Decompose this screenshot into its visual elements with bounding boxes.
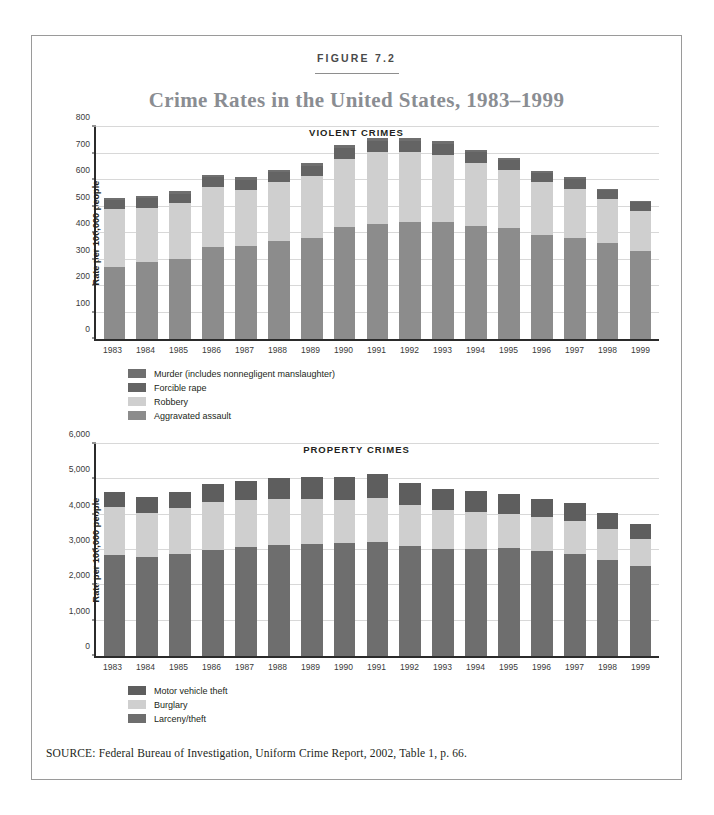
bar-column[interactable] (361, 127, 394, 339)
bar-column[interactable] (230, 127, 263, 339)
bar-segment[interactable] (399, 483, 421, 505)
bar-segment[interactable] (268, 172, 290, 182)
bar-segment[interactable] (268, 241, 290, 339)
bar-segment[interactable] (367, 224, 389, 339)
bar-column[interactable] (197, 444, 230, 656)
bar-segment[interactable] (169, 194, 191, 204)
bar-column[interactable] (493, 127, 526, 339)
bar-segment[interactable] (334, 500, 356, 544)
bar-segment[interactable] (498, 494, 520, 514)
bar-segment[interactable] (498, 514, 520, 549)
bar-segment[interactable] (104, 555, 126, 656)
bar-segment[interactable] (136, 208, 158, 262)
bar-segment[interactable] (136, 557, 158, 656)
bar-segment[interactable] (136, 262, 158, 339)
bar-segment[interactable] (104, 209, 126, 267)
bar-column[interactable] (624, 444, 657, 656)
bar-column[interactable] (262, 444, 295, 656)
bar-segment[interactable] (301, 477, 323, 499)
bar-segment[interactable] (597, 199, 619, 243)
bar-column[interactable] (591, 444, 624, 656)
bar-segment[interactable] (202, 484, 224, 502)
legend-item[interactable]: Murder (includes nonnegligent manslaught… (128, 367, 681, 380)
bar-column[interactable] (558, 444, 591, 656)
bar-column[interactable] (525, 444, 558, 656)
bar-segment[interactable] (465, 226, 487, 339)
bar-segment[interactable] (136, 513, 158, 558)
bar-column[interactable] (427, 127, 460, 339)
bar-column[interactable] (328, 127, 361, 339)
bar-column[interactable] (460, 444, 493, 656)
legend-item[interactable]: Motor vehicle theft (128, 684, 681, 697)
bar-segment[interactable] (432, 144, 454, 155)
bar-segment[interactable] (202, 550, 224, 656)
bar-column[interactable] (262, 127, 295, 339)
bar-segment[interactable] (399, 141, 421, 152)
bar-column[interactable] (394, 444, 427, 656)
bar-segment[interactable] (531, 235, 553, 339)
bar-segment[interactable] (432, 489, 454, 510)
bar-column[interactable] (230, 444, 263, 656)
legend-item[interactable]: Aggravated assault (128, 409, 681, 422)
legend-item[interactable]: Larceny/theft (128, 712, 681, 725)
bar-segment[interactable] (104, 492, 126, 507)
bar-segment[interactable] (564, 503, 586, 521)
bar-segment[interactable] (334, 148, 356, 159)
bar-segment[interactable] (202, 187, 224, 247)
bar-segment[interactable] (169, 492, 191, 508)
bar-segment[interactable] (465, 491, 487, 512)
bar-segment[interactable] (630, 202, 652, 210)
bar-segment[interactable] (432, 155, 454, 223)
bar-segment[interactable] (104, 200, 126, 209)
bar-segment[interactable] (399, 222, 421, 339)
bar-segment[interactable] (136, 497, 158, 512)
legend-item[interactable]: Robbery (128, 395, 681, 408)
bar-segment[interactable] (597, 513, 619, 529)
bar-column[interactable] (98, 444, 131, 656)
bar-segment[interactable] (465, 163, 487, 226)
bar-segment[interactable] (630, 539, 652, 566)
bar-segment[interactable] (268, 545, 290, 656)
bar-column[interactable] (394, 127, 427, 339)
legend-item[interactable]: Forcible rape (128, 381, 681, 394)
bar-segment[interactable] (564, 189, 586, 238)
bar-segment[interactable] (334, 227, 356, 339)
bar-segment[interactable] (367, 474, 389, 497)
bar-segment[interactable] (367, 152, 389, 224)
bar-column[interactable] (591, 127, 624, 339)
bar-segment[interactable] (498, 228, 520, 339)
bar-segment[interactable] (498, 548, 520, 656)
bar-segment[interactable] (235, 547, 257, 656)
bar-segment[interactable] (202, 502, 224, 550)
bar-segment[interactable] (136, 198, 158, 208)
bar-column[interactable] (328, 444, 361, 656)
bar-segment[interactable] (334, 159, 356, 227)
bar-segment[interactable] (465, 152, 487, 162)
bar-segment[interactable] (630, 251, 652, 340)
bar-segment[interactable] (597, 560, 619, 656)
bar-segment[interactable] (399, 152, 421, 222)
bar-segment[interactable] (169, 203, 191, 258)
bar-segment[interactable] (169, 554, 191, 657)
bar-segment[interactable] (169, 259, 191, 339)
bar-segment[interactable] (531, 551, 553, 656)
bar-segment[interactable] (235, 500, 257, 547)
bar-column[interactable] (131, 127, 164, 339)
bar-segment[interactable] (268, 478, 290, 499)
bar-column[interactable] (98, 127, 131, 339)
bar-column[interactable] (295, 444, 328, 656)
bar-column[interactable] (427, 444, 460, 656)
bar-segment[interactable] (334, 477, 356, 500)
bar-segment[interactable] (399, 546, 421, 656)
bar-segment[interactable] (498, 160, 520, 170)
bar-segment[interactable] (531, 499, 553, 518)
bar-segment[interactable] (235, 190, 257, 246)
bar-segment[interactable] (630, 211, 652, 251)
bar-segment[interactable] (531, 173, 553, 183)
bar-segment[interactable] (465, 512, 487, 549)
bar-column[interactable] (164, 444, 197, 656)
bar-segment[interactable] (301, 238, 323, 339)
bar-segment[interactable] (235, 481, 257, 500)
bar-segment[interactable] (301, 499, 323, 544)
bar-column[interactable] (558, 127, 591, 339)
